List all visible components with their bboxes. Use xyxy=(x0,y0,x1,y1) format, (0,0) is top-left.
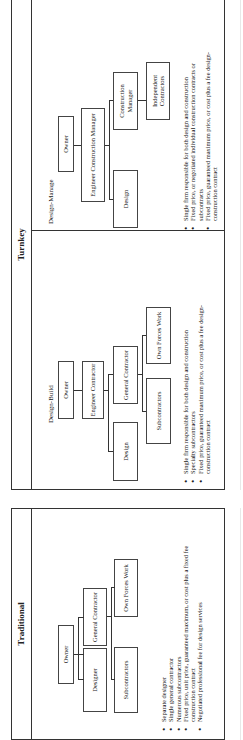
traditional-designer-box: Designer xyxy=(83,648,107,712)
connector xyxy=(111,587,115,588)
db-design-box: Design xyxy=(113,422,138,481)
bullet-item: Single firm responsible for both design … xyxy=(182,283,189,483)
connector xyxy=(111,679,115,680)
connector xyxy=(78,679,84,680)
design-build-title: Design-Build xyxy=(47,385,55,423)
design-manage-section: Design-Manage Owner Engineer Constructio… xyxy=(31,0,224,231)
connector xyxy=(78,617,79,680)
page-rotated: Traditional Owner Designer General Contr… xyxy=(0,0,243,740)
connector xyxy=(74,145,81,146)
turnkey-title: Turnkey xyxy=(12,0,32,489)
bullet-item: Fixed price, guaranteed maximum price, o… xyxy=(204,30,219,230)
connector xyxy=(108,451,113,452)
design-manage-title: Design-Manage xyxy=(47,179,55,224)
db-owner-box: Owner xyxy=(58,361,74,419)
traditional-subcontractors-box: Subcontractors xyxy=(114,647,138,713)
traditional-owner-box: Owner xyxy=(58,625,74,684)
traditional-own-forces-box: Own Forces Work xyxy=(114,559,138,617)
connector xyxy=(78,617,84,618)
db-engineer-contractor-box: Engineer Contractor xyxy=(82,361,104,419)
connector xyxy=(142,411,146,412)
dm-engineer-construction-manager-box: Engineer Construction Manager xyxy=(81,108,105,202)
bullet-item: Separate designer xyxy=(160,513,167,731)
connector xyxy=(108,374,109,452)
bullet-item: Fixed price, or negotiated individual co… xyxy=(189,30,204,230)
db-subcontractors-box: Subcontractors xyxy=(146,378,171,444)
traditional-bullets: Separate designer Single general contrac… xyxy=(160,513,204,731)
db-own-forces-box: Own Forces Work xyxy=(146,307,171,364)
connector xyxy=(74,390,82,391)
traditional-general-contractor-box: General Contractor xyxy=(83,588,107,646)
dm-construction-manager-box: Construction Manager xyxy=(113,72,138,130)
design-build-section: Design-Build Owner Engineer Contractor D… xyxy=(31,231,224,489)
design-build-bullets: Single firm responsible for both design … xyxy=(182,283,211,483)
traditional-panel: Traditional Owner Designer General Contr… xyxy=(11,508,225,740)
bullet-item: Specialty subcontractors xyxy=(189,283,196,483)
bullet-item: Single general contractor xyxy=(167,513,174,731)
db-general-contractor-box: General Contractor xyxy=(113,346,138,404)
connector xyxy=(138,100,146,101)
turnkey-panel: Turnkey Design-Build Owner Engineer Cont… xyxy=(11,0,225,490)
page-edge-line xyxy=(240,0,241,490)
traditional-title: Traditional xyxy=(12,509,32,739)
dm-independent-contractors-box: Independent Contractors xyxy=(146,62,170,120)
connector xyxy=(142,335,146,336)
connector xyxy=(109,199,113,200)
connector xyxy=(111,587,112,680)
connector xyxy=(109,100,110,200)
dm-owner-box: Owner xyxy=(58,116,74,172)
connector xyxy=(142,335,143,412)
bullet-item: Fixed price, guaranteed maximum price, o… xyxy=(197,283,212,483)
connector xyxy=(109,100,113,101)
dm-design-box: Design xyxy=(113,170,138,228)
page-edge-line xyxy=(240,508,241,740)
bullet-item: Numerous subcontractors xyxy=(175,513,182,731)
bullet-item: Fixed price, unit price, guaranteed maxi… xyxy=(182,513,197,731)
design-manage-bullets: Single firm responsible for both design … xyxy=(182,30,218,230)
connector xyxy=(108,374,113,375)
bullet-item: Single firm responsible for both design … xyxy=(182,30,189,230)
bullet-item: Negotiated professional fee for design s… xyxy=(196,513,203,731)
